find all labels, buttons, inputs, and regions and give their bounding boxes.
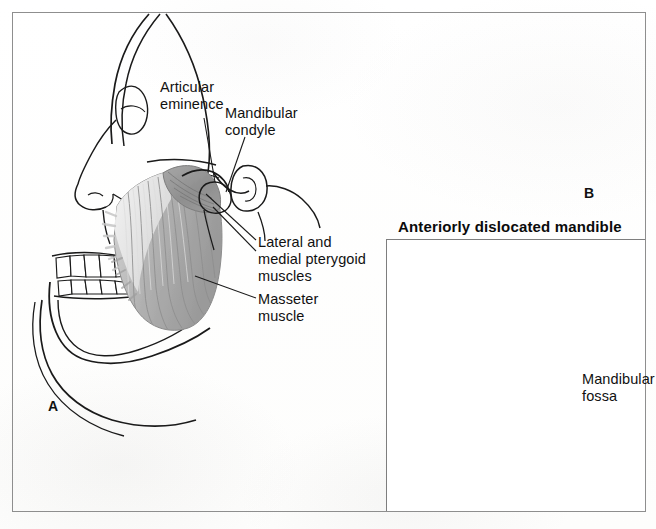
label-articular-eminence: Articular eminence: [160, 79, 224, 113]
label-mandibular-condyle: Mandibular condyle: [225, 105, 298, 139]
label-mandibular-fossa: Mandibular fossa: [582, 371, 655, 405]
panel-letter-a: A: [48, 398, 58, 414]
label-masseter-muscle: Masseter muscle: [258, 291, 318, 325]
panel-b-title: Anteriorly dislocated mandible: [398, 218, 622, 235]
label-pterygoid-muscles: Lateral and medial pterygoid muscles: [258, 234, 366, 285]
leader-mandibular-condyle: [226, 137, 245, 192]
panel-a-illustration: [33, 14, 320, 436]
panel-letter-b: B: [584, 185, 594, 201]
anatomy-figure: Anteriorly dislocated mandible Articular…: [0, 0, 656, 529]
